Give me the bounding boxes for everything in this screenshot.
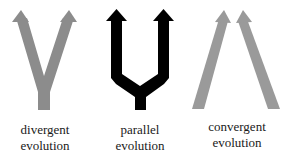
divergent-label: divergent evolution xyxy=(0,122,93,154)
parallel-label-line2: evolution xyxy=(92,138,188,154)
divergent-label-line2: evolution xyxy=(0,138,93,154)
convergent-label-line1: convergent xyxy=(189,119,285,135)
convergent-label-line2: evolution xyxy=(189,135,285,151)
parallel-label-line1: parallel xyxy=(92,122,188,138)
parallel-arrows-icon xyxy=(106,9,174,110)
divergent-label-line1: divergent xyxy=(0,122,93,138)
convergent-label: convergent evolution xyxy=(189,119,285,151)
convergent-arrows-icon xyxy=(192,10,280,109)
parallel-label: parallel evolution xyxy=(92,122,188,154)
evolution-diagram xyxy=(0,0,288,110)
divergent-arrows-icon xyxy=(12,10,77,110)
